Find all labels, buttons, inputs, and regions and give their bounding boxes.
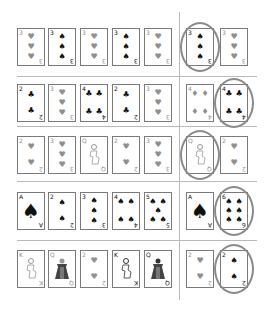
heart-icon: ♥ [230,43,237,51]
sequence-card: AA♠ [17,192,45,230]
spade-icon: ♠ [58,33,65,41]
sequence-card: 33♥♥♥ [144,28,172,66]
sequence-card: 33♥♥♥ [144,84,172,122]
spade-icon: ♠ [230,257,237,265]
spade-icon: ♠ [159,216,166,224]
heart-icon: ♥ [27,53,34,61]
answer-option-card[interactable]: 33♥♥♥ [220,28,248,66]
spade-icon: ♠ [122,53,129,61]
king-figure-icon [24,258,38,284]
club-icon: ♣ [95,108,102,116]
spade-icon: ♠ [230,273,237,281]
heart-icon: ♥ [154,89,161,97]
heart-icon: ♥ [154,151,161,159]
sequence-card: 22♥♥ [80,250,108,288]
sequence-card: 33♥♥♥ [144,136,172,174]
heart-icon: ♥ [90,43,97,51]
queen-figure-icon [54,258,70,284]
sequence-card: 33♥♥♥ [80,28,108,66]
spade-icon: ♠ [225,216,232,224]
sequence-card: KK [17,250,45,288]
sequence-card: 44♠♠♠♠ [112,192,140,230]
club-icon: ♣ [95,90,102,98]
answer-option-card[interactable]: 22♠♠ [220,250,248,288]
heart-icon: ♥ [230,143,237,151]
answer-option-card[interactable]: 66♠♠♠♠♠♠ [220,192,248,230]
sequence-card: 33♠♠♠ [80,192,108,230]
heart-icon: ♥ [90,257,97,265]
sequence-card: 33♥♥♥ [48,84,76,122]
heart-icon: ♥ [154,109,161,117]
heart-icon: ♥ [58,109,65,117]
sequence-options-divider [179,12,180,300]
heart-icon: ♥ [58,89,65,97]
answer-option-card[interactable]: 44♦♦♦♦ [186,84,214,122]
sequence-card: 22♠♠ [48,192,76,230]
sequence-card: 33♠♠♠ [48,28,76,66]
sequence-card: KK [112,250,140,288]
spade-icon: ♠ [235,216,242,224]
spade-icon: ♠ [117,198,124,206]
club-icon: ♣ [235,108,242,116]
answer-option-card[interactable]: 44♣♣♣♣ [220,84,248,122]
diamond-icon: ♦ [201,90,208,98]
heart-icon: ♥ [27,143,34,151]
row-divider [17,181,257,182]
heart-icon: ♥ [58,99,65,107]
sequence-card: 33♠♠♠ [112,28,140,66]
sequence-card: 55♠♠♠♠♠ [144,192,172,230]
spade-icon: ♠ [235,207,242,215]
answer-option-card[interactable]: QQ [186,136,214,174]
row-divider [17,240,257,241]
sequence-card: 33♥♥♥ [17,28,45,66]
card-rank-label: K [19,252,23,258]
spade-icon: ♠ [90,217,97,225]
spade-icon: ♠ [196,53,203,61]
heart-icon: ♥ [90,273,97,281]
heart-icon: ♥ [27,33,34,41]
card-rank-label: Q [101,166,106,172]
queen-figure-icon [87,144,101,170]
diamond-icon: ♦ [191,90,198,98]
spade-icon: ♠ [58,43,65,51]
spade-icon: ♠ [154,207,161,215]
answer-option-card[interactable]: 22♥♥ [186,250,214,288]
heart-icon: ♥ [154,141,161,149]
sequence-card: QQ [48,250,76,288]
heart-icon: ♥ [154,43,161,51]
card-rank-label: K [39,280,43,286]
row-divider [17,126,257,127]
answer-option-card[interactable]: 33♠♠♠ [186,28,214,66]
spade-icon: ♠ [90,197,97,205]
club-icon: ♣ [235,90,242,98]
answer-option-card[interactable]: 22♥♥ [220,136,248,174]
heart-icon: ♥ [90,53,97,61]
diamond-icon: ♦ [191,108,198,116]
spade-icon: ♠ [196,33,203,41]
club-icon: ♣ [27,91,34,99]
heart-icon: ♥ [230,33,237,41]
club-icon: ♣ [225,108,232,116]
spade-icon: ♠ [149,198,156,206]
sequence-card: QQ [144,250,172,288]
spade-icon: ♠ [149,216,156,224]
sequence-card: 22♣♣ [112,84,140,122]
spade-icon: ♠ [225,198,232,206]
spade-icon: ♠ [117,216,124,224]
club-icon: ♣ [225,90,232,98]
spade-icon: ♠ [122,33,129,41]
answer-option-card[interactable]: AA♠ [186,192,214,230]
heart-icon: ♥ [196,257,203,265]
spade-icon: ♠ [127,216,134,224]
heart-icon: ♥ [27,43,34,51]
club-icon: ♣ [122,107,129,115]
heart-icon: ♥ [154,53,161,61]
spade-icon: ♠ [58,215,65,223]
spade-icon: ♠ [58,199,65,207]
row-divider [17,76,257,77]
heart-icon: ♥ [58,151,65,159]
sequence-card: QQ [80,136,108,174]
heart-icon: ♥ [154,99,161,107]
spade-icon: ♠ [225,207,232,215]
heart-icon: ♥ [154,33,161,41]
